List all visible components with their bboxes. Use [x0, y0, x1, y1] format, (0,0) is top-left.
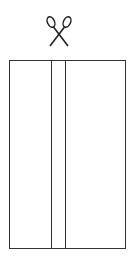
scissors-icon [44, 15, 74, 47]
fold-line-right [65, 60, 66, 249]
fold-line-left [51, 60, 52, 249]
paper-rectangle [9, 60, 126, 249]
